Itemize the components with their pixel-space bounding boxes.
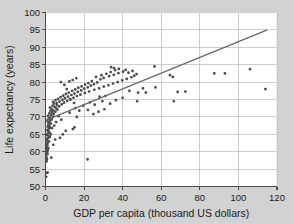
data-point xyxy=(100,74,103,77)
data-point xyxy=(144,91,147,94)
data-point xyxy=(117,68,120,71)
data-point xyxy=(71,79,74,82)
data-point xyxy=(62,94,65,97)
data-point xyxy=(65,88,68,91)
data-point xyxy=(172,100,175,103)
data-point xyxy=(130,76,133,79)
data-point xyxy=(68,111,71,114)
data-point xyxy=(103,108,106,111)
data-point xyxy=(60,103,63,106)
data-point xyxy=(80,89,83,92)
data-point xyxy=(86,86,89,89)
data-point xyxy=(154,86,157,89)
y-axis-tick-label-70: 70 xyxy=(29,111,40,122)
data-point xyxy=(60,81,63,84)
data-point xyxy=(51,127,54,130)
data-point xyxy=(249,68,252,71)
data-point xyxy=(133,74,136,77)
data-point xyxy=(87,82,90,85)
data-point xyxy=(54,138,57,141)
data-point xyxy=(264,88,267,91)
data-point xyxy=(67,95,70,98)
data-point xyxy=(77,86,80,89)
data-point xyxy=(93,103,96,106)
data-point xyxy=(55,102,58,105)
data-point xyxy=(122,70,125,73)
data-point xyxy=(99,78,102,81)
data-point xyxy=(55,121,58,124)
data-point xyxy=(142,87,145,90)
data-point xyxy=(48,136,51,139)
data-point xyxy=(97,110,100,113)
y-axis-tick-label-95: 95 xyxy=(29,24,40,35)
data-point xyxy=(184,90,187,93)
data-point xyxy=(121,96,124,99)
x-axis-tick-label-60: 60 xyxy=(156,192,167,203)
data-point xyxy=(112,82,115,85)
data-point xyxy=(74,88,77,91)
data-point xyxy=(93,83,96,86)
data-point xyxy=(50,156,53,159)
data-point xyxy=(64,129,67,132)
data-point xyxy=(77,90,80,93)
data-point xyxy=(108,75,111,78)
x-axis-title: GDP per capita (thousand US dollars) xyxy=(73,207,249,219)
data-point xyxy=(169,74,172,77)
y-axis-tick-label-60: 60 xyxy=(29,146,40,157)
data-point xyxy=(79,93,82,96)
data-point xyxy=(49,106,52,109)
data-point xyxy=(63,101,66,104)
data-point xyxy=(47,115,50,118)
data-point xyxy=(49,133,52,136)
chart-svg: 50556065707580859095100020406080100120GD… xyxy=(0,0,293,223)
data-point xyxy=(84,92,87,95)
data-point xyxy=(127,71,130,74)
scatter-chart-figure: 50556065707580859095100020406080100120GD… xyxy=(0,0,293,223)
data-point xyxy=(87,109,90,112)
data-point xyxy=(69,98,72,101)
data-point xyxy=(107,84,110,87)
data-point xyxy=(95,76,98,79)
data-point xyxy=(115,99,118,102)
x-axis-tick-label-80: 80 xyxy=(195,192,206,203)
data-point xyxy=(75,77,78,80)
data-point xyxy=(84,83,87,86)
data-point xyxy=(53,124,56,127)
data-point xyxy=(102,77,105,80)
data-point xyxy=(48,112,51,115)
data-point xyxy=(117,72,120,75)
data-point xyxy=(89,84,92,87)
data-point xyxy=(83,87,86,90)
data-point xyxy=(171,76,174,79)
data-point xyxy=(224,72,227,75)
data-point xyxy=(121,79,124,82)
data-point xyxy=(48,140,51,143)
data-point xyxy=(98,87,101,90)
data-point xyxy=(64,97,67,100)
y-axis-tick-label-50: 50 xyxy=(29,181,40,192)
data-point xyxy=(59,136,62,139)
data-point xyxy=(62,133,65,136)
data-point xyxy=(66,100,69,103)
data-point xyxy=(90,80,93,83)
y-axis-tick-label-65: 65 xyxy=(29,129,40,140)
x-axis-tick-label-20: 20 xyxy=(79,192,90,203)
data-point xyxy=(105,72,108,75)
data-point xyxy=(72,96,75,99)
y-axis-tick-label-75: 75 xyxy=(29,94,40,105)
data-point xyxy=(58,100,61,103)
data-point xyxy=(112,73,115,76)
data-point xyxy=(75,116,78,119)
y-axis-tick-label-90: 90 xyxy=(29,42,40,53)
data-point xyxy=(128,89,131,92)
data-point xyxy=(80,85,83,88)
data-point xyxy=(93,88,96,91)
data-point xyxy=(72,128,75,131)
data-point xyxy=(71,89,74,92)
data-point xyxy=(110,66,113,69)
data-point xyxy=(137,91,140,94)
data-point xyxy=(46,171,49,174)
data-point xyxy=(59,96,62,99)
data-point xyxy=(60,118,63,121)
data-point xyxy=(67,91,70,94)
